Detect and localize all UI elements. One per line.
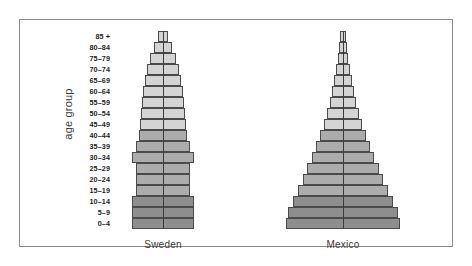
bar-male-45-49: [324, 119, 343, 130]
bar-male-30-34: [312, 152, 343, 163]
pyramid-mexico: Mexico: [20, 31, 452, 229]
bar-male-15-19: [298, 185, 343, 196]
pyramid-row-85+: [20, 31, 452, 42]
bar-male-55-59: [330, 97, 343, 108]
bar-female-45-49: [343, 119, 362, 130]
country-label-mexico: Mexico: [283, 239, 403, 250]
bar-female-20-24: [343, 174, 383, 185]
pyramid-row-80-84: [20, 42, 452, 53]
pyramid-row-20-24: [20, 174, 452, 185]
pyramid-row-50-54: [20, 108, 452, 119]
bar-female-15-19: [343, 185, 388, 196]
bar-female-30-34: [343, 152, 374, 163]
bar-female-50-54: [343, 108, 359, 119]
bar-female-70-74: [343, 64, 350, 75]
bar-male-60-64: [332, 86, 343, 97]
bar-female-60-64: [343, 86, 354, 97]
country-label-sweden: Sweden: [103, 239, 223, 250]
bar-male-10-14: [293, 196, 343, 207]
pyramid-row-55-59: [20, 97, 452, 108]
pyramid-row-30-34: [20, 152, 452, 163]
pyramid-rows: [20, 31, 452, 229]
bar-female-55-59: [343, 97, 356, 108]
bar-male-20-24: [303, 174, 343, 185]
pyramid-row-5-9: [20, 207, 452, 218]
bar-male-25-29: [307, 163, 343, 174]
bar-male-70-74: [336, 64, 343, 75]
bar-male-40-44: [320, 130, 343, 141]
pyramid-row-0-4: [20, 218, 452, 229]
pyramid-row-60-64: [20, 86, 452, 97]
bar-male-35-39: [316, 141, 343, 152]
bar-female-0-4: [343, 218, 400, 229]
bar-female-25-29: [343, 163, 379, 174]
pyramid-centerline: [343, 31, 344, 229]
bar-female-5-9: [343, 207, 398, 218]
pyramid-row-10-14: [20, 196, 452, 207]
bar-female-65-69: [343, 75, 352, 86]
pyramid-row-40-44: [20, 130, 452, 141]
pyramid-row-70-74: [20, 64, 452, 75]
pyramid-row-15-19: [20, 185, 452, 196]
bar-male-50-54: [327, 108, 343, 119]
population-pyramid-figure: age group 85 +80–8475–7970–7465–6960–645…: [0, 0, 472, 266]
pyramid-row-35-39: [20, 141, 452, 152]
pyramid-row-65-69: [20, 75, 452, 86]
pyramid-row-45-49: [20, 119, 452, 130]
bar-female-35-39: [343, 141, 370, 152]
bar-male-5-9: [288, 207, 343, 218]
pyramid-row-75-79: [20, 53, 452, 64]
bar-female-10-14: [343, 196, 393, 207]
figure-frame: age group 85 +80–8475–7970–7465–6960–645…: [19, 19, 453, 247]
bar-male-65-69: [334, 75, 343, 86]
bar-male-0-4: [286, 218, 343, 229]
pyramid-row-25-29: [20, 163, 452, 174]
bar-female-40-44: [343, 130, 366, 141]
